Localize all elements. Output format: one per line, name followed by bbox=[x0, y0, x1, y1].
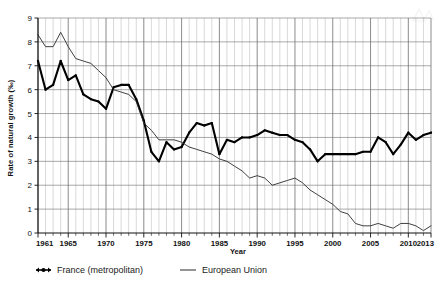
data-point bbox=[369, 151, 371, 153]
data-point bbox=[188, 132, 190, 134]
y-tick-label: 8 bbox=[28, 38, 33, 47]
x-axis-title: Year bbox=[230, 247, 246, 256]
data-point bbox=[407, 132, 409, 134]
y-tick-label: 6 bbox=[28, 86, 33, 95]
data-point bbox=[316, 160, 318, 162]
data-point bbox=[422, 134, 424, 136]
legend-thick-line-with-dot-icon bbox=[36, 268, 51, 273]
data-point bbox=[60, 60, 62, 62]
data-point bbox=[120, 84, 122, 86]
data-point bbox=[339, 153, 341, 155]
y-tick-label: 1 bbox=[28, 205, 33, 214]
data-point bbox=[324, 153, 326, 155]
y-tick-label: 0 bbox=[28, 229, 33, 238]
x-tick-label: 1961 bbox=[36, 239, 54, 248]
legend-label-france: France (metropolitan) bbox=[57, 265, 143, 275]
data-point bbox=[241, 136, 243, 138]
data-point bbox=[67, 79, 69, 81]
data-point bbox=[218, 153, 220, 155]
data-point bbox=[52, 84, 54, 86]
x-tick-label: 1965 bbox=[60, 239, 78, 248]
x-tick-label: 1975 bbox=[135, 239, 153, 248]
data-point bbox=[430, 132, 432, 134]
chart-figure: Rate of natural growth (‰) 0123456789 19… bbox=[0, 0, 444, 288]
data-point bbox=[150, 151, 152, 153]
data-point bbox=[377, 136, 379, 138]
y-tick-label: 2 bbox=[28, 181, 33, 190]
data-point bbox=[286, 134, 288, 136]
y-tick-label: 7 bbox=[28, 62, 33, 71]
x-tick-label: 1970 bbox=[97, 239, 115, 248]
y-tick-label: 5 bbox=[28, 110, 33, 119]
data-point bbox=[211, 122, 213, 124]
data-point bbox=[279, 134, 281, 136]
y-axis-title: Rate of natural growth (‰) bbox=[6, 79, 15, 176]
data-point bbox=[271, 132, 273, 134]
data-point bbox=[165, 141, 167, 143]
data-point bbox=[158, 160, 160, 162]
data-point bbox=[309, 148, 311, 150]
data-point bbox=[400, 143, 402, 145]
data-point bbox=[173, 148, 175, 150]
data-point bbox=[248, 136, 250, 138]
y-tick-label: 4 bbox=[28, 133, 33, 142]
y-tick-label: 9 bbox=[28, 14, 33, 23]
data-point bbox=[128, 84, 130, 86]
x-tick-label: 2013 bbox=[417, 239, 435, 248]
data-point bbox=[294, 139, 296, 141]
data-point bbox=[226, 139, 228, 141]
data-point bbox=[203, 124, 205, 126]
data-point bbox=[135, 98, 137, 100]
data-point bbox=[97, 100, 99, 102]
data-point bbox=[256, 134, 258, 136]
legend-label-european-union: European Union bbox=[202, 265, 267, 275]
x-tick-label: 1995 bbox=[286, 239, 304, 248]
data-point bbox=[362, 151, 364, 153]
data-point bbox=[75, 74, 77, 76]
data-point bbox=[82, 93, 84, 95]
data-point bbox=[105, 108, 107, 110]
data-point bbox=[233, 141, 235, 143]
data-point bbox=[301, 141, 303, 143]
data-point bbox=[196, 122, 198, 124]
data-point bbox=[44, 89, 46, 91]
data-point bbox=[392, 153, 394, 155]
data-point bbox=[415, 139, 417, 141]
x-tick-label: 1980 bbox=[173, 239, 191, 248]
data-point bbox=[347, 153, 349, 155]
natural-growth-rate-line-chart: Rate of natural growth (‰) 0123456789 19… bbox=[0, 0, 444, 288]
data-point bbox=[180, 146, 182, 148]
data-point bbox=[264, 129, 266, 131]
y-tick-label: 3 bbox=[28, 157, 33, 166]
x-tick-label: 1990 bbox=[248, 239, 266, 248]
data-point bbox=[354, 153, 356, 155]
data-point bbox=[332, 153, 334, 155]
x-tick-label: 1985 bbox=[211, 239, 229, 248]
x-tick-label: 2005 bbox=[362, 239, 380, 248]
x-tick-label: 2000 bbox=[324, 239, 342, 248]
data-point bbox=[90, 98, 92, 100]
data-point bbox=[385, 141, 387, 143]
x-tick-label: 2010 bbox=[400, 239, 418, 248]
